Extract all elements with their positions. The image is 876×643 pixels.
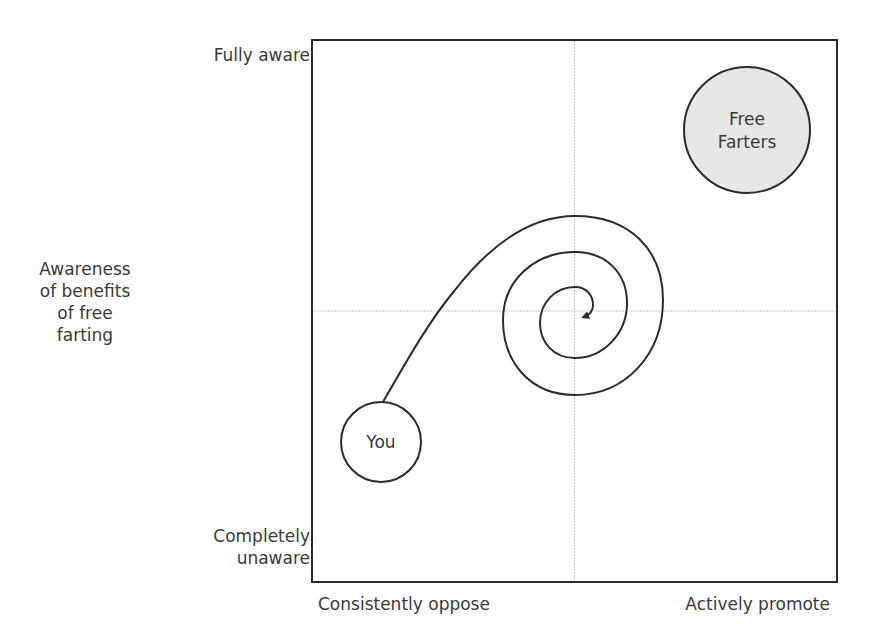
y-axis-title-line-2: of benefits — [18, 280, 152, 302]
y-axis-title: Awareness of benefits of free farting — [18, 258, 152, 346]
x-axis-right-label: Actively promote — [685, 593, 830, 615]
x-axis-left-label: Consistently oppose — [318, 593, 490, 615]
you-label: You — [341, 431, 421, 454]
y-axis-title-line-3: of free — [18, 302, 152, 324]
y-axis-bottom-label: Completely unaware — [213, 525, 310, 569]
y-axis-title-line-1: Awareness — [18, 258, 152, 280]
y-axis-title-line-4: farting — [18, 324, 152, 346]
free-farters-label-line-1: Free — [684, 108, 810, 131]
y-axis-bottom-label-line-2: unaware — [213, 547, 310, 569]
y-axis-top-label: Fully aware — [214, 44, 310, 66]
free-farters-label: Free Farters — [684, 108, 810, 154]
free-farters-label-line-2: Farters — [684, 131, 810, 154]
spiral-path — [383, 216, 663, 402]
y-axis-bottom-label-line-1: Completely — [213, 525, 310, 547]
